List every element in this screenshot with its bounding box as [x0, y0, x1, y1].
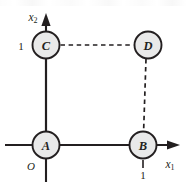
node-D-label: D [142, 39, 152, 53]
edge-D-B [144, 59, 146, 132]
x1-axis-label: x1 [164, 158, 174, 172]
origin-label: O [27, 160, 35, 172]
node-D[interactable]: D [135, 32, 162, 59]
x2-axis-label-subscript: 2 [34, 16, 38, 25]
node-B[interactable]: B [130, 132, 157, 159]
x1-axis-label-subscript: 1 [171, 163, 175, 172]
node-A-label: A [41, 139, 50, 153]
x2-axis-label: x2 [27, 11, 37, 25]
node-B-label: B [138, 139, 147, 153]
coordinate-diagram: C D A B 1 1 O x2 x1 [0, 0, 187, 186]
node-A[interactable]: A [33, 132, 60, 159]
figure-container: C D A B 1 1 O x2 x1 [0, 0, 187, 186]
x1-axis-arrowhead [167, 140, 180, 149]
x-axis-tick-label-one: 1 [140, 169, 146, 181]
node-C[interactable]: C [33, 32, 60, 59]
node-C-label: C [42, 39, 51, 53]
y-axis-tick-label-one: 1 [18, 40, 24, 52]
x2-axis-arrowhead [41, 13, 50, 26]
